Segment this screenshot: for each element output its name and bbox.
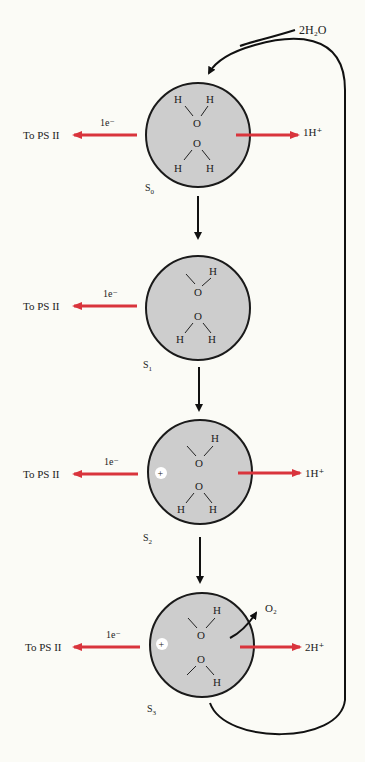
water-input-arrow (240, 30, 295, 46)
proton-label: 2H⁺ (305, 641, 324, 653)
h-atom: H (213, 676, 221, 688)
h-atom: H (206, 162, 214, 174)
s-state-cycle-diagram: 2H₂O H H O O H H S0 1e⁻ To PS II 1H⁺ H O… (0, 0, 365, 762)
state-s1: H O O H H S1 1e⁻ To PS II (23, 256, 250, 373)
o-atom: O (194, 286, 202, 298)
h-atom: H (208, 333, 216, 345)
h-atom: H (209, 503, 217, 515)
plus-sign: + (158, 468, 164, 479)
electron-label: 1e⁻ (104, 456, 119, 467)
h-atom: H (213, 604, 221, 616)
h-atom: H (174, 162, 182, 174)
electron-label: 1e⁻ (106, 629, 121, 640)
h-atom: H (206, 93, 214, 105)
ps2-label: To PS II (23, 468, 60, 480)
o-atom: O (197, 629, 205, 641)
proton-label: 1H⁺ (305, 467, 324, 479)
state-label: S2 (143, 532, 153, 546)
h-atom: H (174, 93, 182, 105)
o2-label: O₂ (265, 602, 277, 614)
state-label: S0 (145, 182, 155, 196)
o-atom: O (195, 480, 203, 492)
electron-label: 1e⁻ (100, 117, 115, 128)
ps2-label: To PS II (23, 129, 60, 141)
o-atom: O (194, 310, 202, 322)
state-circle (146, 256, 250, 360)
o-atom: O (193, 117, 201, 129)
h-atom: H (209, 265, 217, 277)
h-atom: H (177, 503, 185, 515)
plus-sign: + (159, 639, 165, 650)
state-label: S3 (147, 703, 157, 717)
water-input-label: 2H₂O (299, 23, 327, 37)
state-label: S1 (143, 359, 153, 373)
h-atom: H (211, 432, 219, 444)
ps2-label: To PS II (25, 641, 62, 653)
state-s3: H O O H + O₂ S3 1e⁻ To PS II 2H⁺ (25, 593, 324, 717)
o-atom: O (193, 137, 201, 149)
electron-label: 1e⁻ (103, 288, 118, 299)
state-s2: H O O H H + S2 1e⁻ To PS II 1H⁺ (23, 420, 324, 546)
state-s0: H H O O H H S0 1e⁻ To PS II 1H⁺ (23, 83, 322, 196)
o-atom: O (195, 457, 203, 469)
h-atom: H (176, 333, 184, 345)
proton-label: 1H⁺ (303, 126, 322, 138)
ps2-label: To PS II (23, 300, 60, 312)
state-circle (146, 83, 250, 187)
o-atom: O (197, 653, 205, 665)
